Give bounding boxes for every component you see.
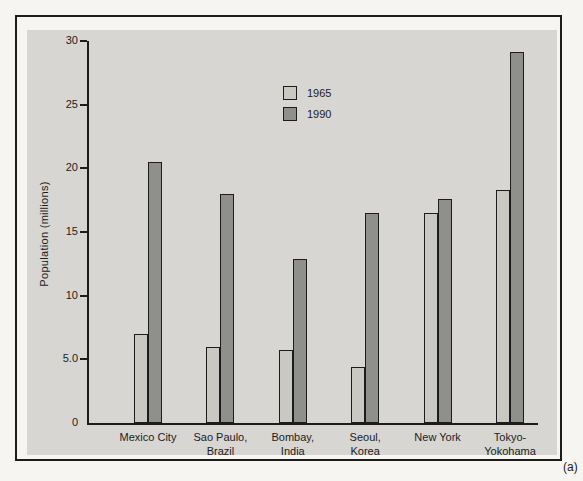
y-tick-label-15: 15 xyxy=(34,225,78,238)
y-tick-label-0: 0 xyxy=(34,416,78,429)
y-tick-label-25: 25 xyxy=(34,98,78,111)
y-tick-mark-15 xyxy=(80,231,87,233)
bar-new-york-1990 xyxy=(438,199,452,423)
bar-sao-paulo-1965 xyxy=(206,347,220,423)
y-tick-label-5-0: 5.0 xyxy=(34,352,78,365)
legend-swatch-1990 xyxy=(283,107,297,121)
y-tick-mark-5-0 xyxy=(80,358,87,360)
y-tick-mark-20 xyxy=(80,167,87,169)
figure-screenshot: Population (millions) 30252015105.00Mexi… xyxy=(0,0,583,481)
y-tick-label-20: 20 xyxy=(34,161,78,174)
bar-bombay-1965 xyxy=(279,350,293,423)
y-tick-label-10: 10 xyxy=(34,289,78,302)
figure-part-label: (a) xyxy=(563,460,578,474)
x-axis-line xyxy=(87,423,538,425)
bar-seoul-1990 xyxy=(365,213,379,423)
bar-new-york-1965 xyxy=(424,213,438,423)
legend-label-1965: 1965 xyxy=(307,87,331,99)
legend-item-1965: 1965 xyxy=(283,86,331,100)
bar-bombay-1990 xyxy=(293,259,307,423)
bar-tokyo-1965 xyxy=(496,190,510,423)
y-axis-line xyxy=(87,41,89,425)
bar-mexico-city-1965 xyxy=(134,334,148,423)
y-tick-mark-30 xyxy=(80,40,87,42)
legend-item-1990: 1990 xyxy=(283,107,331,121)
y-tick-label-30: 30 xyxy=(34,34,78,47)
y-tick-mark-25 xyxy=(80,104,87,106)
legend-label-1990: 1990 xyxy=(307,108,331,120)
bar-mexico-city-1990 xyxy=(148,162,162,423)
bar-tokyo-1990 xyxy=(510,52,524,423)
legend-swatch-1965 xyxy=(283,86,297,100)
bar-seoul-1965 xyxy=(351,367,365,423)
legend: 1965 1990 xyxy=(283,86,331,128)
bar-sao-paulo-1990 xyxy=(220,194,234,423)
x-category-label-tokyo: Tokyo- Yokohama xyxy=(458,430,562,458)
y-tick-mark-10 xyxy=(80,295,87,297)
